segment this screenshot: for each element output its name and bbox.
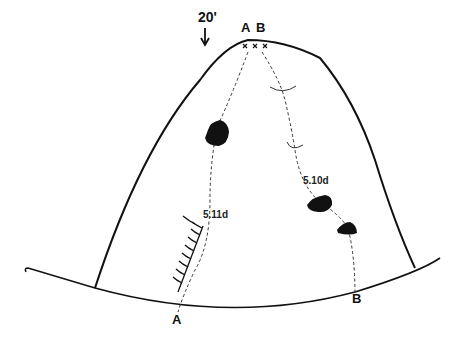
route-b-top-label: B <box>256 20 265 35</box>
hold-icon <box>337 222 357 235</box>
rock-outline <box>95 40 415 288</box>
route-topo-diagram: 20' A B 5.11d 5.10d A B <box>0 0 465 338</box>
route-a-bottom-label: A <box>172 312 182 327</box>
hold-icon <box>205 120 229 146</box>
roof-overhang-feature <box>173 216 203 292</box>
anchor-icons <box>243 44 267 48</box>
bolt-hanger-icon <box>270 86 296 91</box>
route-a-line <box>178 52 248 312</box>
ground-line <box>25 258 440 308</box>
route-a-grade: 5.11d <box>203 209 228 220</box>
route-b-bottom-label: B <box>352 291 361 306</box>
route-a-top-label: A <box>241 20 251 35</box>
down-arrow-icon <box>201 28 209 45</box>
height-label: 20' <box>198 9 217 25</box>
hold-icon <box>307 195 332 212</box>
route-b-grade: 5.10d <box>303 175 329 186</box>
